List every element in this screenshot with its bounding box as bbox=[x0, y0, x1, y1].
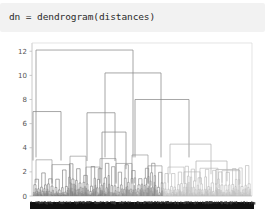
leaf-label-texture bbox=[75, 201, 77, 203]
dendrogram-major-link bbox=[135, 99, 189, 157]
leaf-label-texture bbox=[37, 201, 39, 202]
dendrogram-link bbox=[165, 189, 166, 192]
leaf-label-texture bbox=[120, 202, 122, 204]
dendrogram-link bbox=[243, 190, 244, 193]
leaf-label-texture bbox=[124, 201, 125, 202]
leaf-label-texture bbox=[110, 201, 111, 202]
leaf-label-texture bbox=[193, 202, 194, 204]
dendrogram-link bbox=[44, 189, 45, 192]
y-tick-label: 12 bbox=[18, 48, 27, 56]
dendrogram-link bbox=[86, 167, 100, 184]
leaf-label-texture bbox=[125, 201, 126, 203]
leaf-label-texture bbox=[137, 201, 138, 203]
dendrogram-link bbox=[194, 181, 196, 190]
dendrogram-link bbox=[178, 185, 180, 190]
leaf-label-texture bbox=[159, 202, 160, 203]
dendrogram-link bbox=[205, 177, 207, 189]
leaf-label-texture bbox=[202, 202, 203, 204]
leaf-label-texture bbox=[211, 201, 213, 202]
leaf-label-texture bbox=[234, 202, 235, 203]
code-cell-source: dn = dendrogram(distances) bbox=[9, 11, 155, 23]
leaf-label-texture bbox=[82, 201, 83, 203]
leaf-label-texture bbox=[45, 202, 46, 204]
leaf-label-texture bbox=[226, 202, 228, 204]
leaf-label-texture bbox=[183, 202, 184, 204]
leaf-label-texture bbox=[87, 201, 88, 203]
plot-frame bbox=[32, 43, 252, 196]
y-tick-label: 0 bbox=[23, 193, 27, 201]
dendrogram-link bbox=[109, 184, 110, 192]
leaf-label-texture bbox=[246, 202, 248, 204]
leaf-label-texture bbox=[83, 201, 85, 203]
leaf-label-texture bbox=[167, 202, 169, 204]
leaf-label-texture bbox=[191, 201, 192, 203]
leaf-label-texture bbox=[140, 202, 141, 204]
dendrogram-link bbox=[118, 192, 119, 194]
notebook-output-page: dn = dendrogram(distances) 024681012 bbox=[0, 0, 265, 222]
leaf-label-texture bbox=[184, 202, 185, 204]
dendrogram-link bbox=[84, 175, 88, 184]
dendrogram-major-link bbox=[36, 50, 133, 157]
leaf-label-texture bbox=[130, 201, 131, 203]
leaf-label-texture bbox=[205, 201, 207, 203]
dendrogram-link bbox=[184, 183, 186, 187]
dendrogram-major-link bbox=[196, 161, 227, 181]
leaf-label-texture bbox=[63, 202, 64, 204]
leaf-label-texture bbox=[49, 201, 51, 203]
dendrogram-figure: 024681012 bbox=[0, 36, 265, 222]
dendrogram-link bbox=[164, 183, 166, 189]
leaf-label-texture bbox=[197, 202, 199, 204]
leaf-label-texture bbox=[208, 202, 209, 204]
dendrogram-link bbox=[172, 174, 175, 188]
leaf-label-texture bbox=[221, 202, 223, 204]
code-cell[interactable]: dn = dendrogram(distances) bbox=[0, 3, 265, 32]
dendrogram-link bbox=[63, 170, 67, 188]
dendrogram-link bbox=[72, 179, 74, 184]
leaf-label-texture bbox=[69, 201, 71, 203]
dendrogram-link bbox=[144, 185, 145, 190]
leaf-label-texture bbox=[214, 202, 215, 204]
leaf-label-texture bbox=[165, 201, 167, 203]
leaf-label-texture bbox=[209, 202, 210, 203]
dendrogram-link bbox=[179, 190, 180, 192]
y-tick-label: 4 bbox=[23, 144, 28, 152]
leaf-label-texture bbox=[171, 202, 173, 203]
leaf-label-texture bbox=[77, 202, 79, 204]
leaf-label-texture bbox=[74, 201, 75, 203]
leaf-label-texture bbox=[249, 202, 250, 204]
leaf-label-texture bbox=[240, 202, 241, 203]
dendrogram-link bbox=[97, 179, 99, 187]
dendrogram-link bbox=[67, 191, 68, 194]
dendrogram-link bbox=[200, 189, 201, 192]
leaf-label-texture bbox=[52, 202, 53, 204]
leaf-label-texture bbox=[31, 201, 32, 202]
dendrogram-link bbox=[111, 193, 112, 195]
leaf-label-texture bbox=[220, 202, 221, 203]
dendrogram-link bbox=[101, 190, 102, 194]
leaf-label-texture bbox=[236, 201, 237, 202]
dendrogram-link bbox=[191, 187, 192, 193]
dendrogram-link bbox=[178, 172, 181, 185]
leaf-label-texture bbox=[138, 202, 139, 203]
leaf-label-texture bbox=[177, 202, 178, 204]
y-tick-label: 2 bbox=[23, 168, 27, 176]
leaf-label-texture bbox=[229, 202, 230, 204]
leaf-label-texture bbox=[174, 202, 175, 204]
dendrogram-major-link bbox=[33, 112, 61, 161]
leaf-label-texture bbox=[103, 201, 104, 202]
leaf-label-texture bbox=[204, 202, 205, 205]
dendrogram-link bbox=[39, 192, 40, 194]
dendrogram-link bbox=[152, 163, 155, 175]
y-tick-label: 6 bbox=[23, 120, 28, 128]
dendrogram-link bbox=[68, 188, 69, 193]
leaf-label-texture bbox=[95, 202, 96, 203]
dendrogram-link bbox=[185, 166, 188, 183]
leaf-label-texture bbox=[147, 201, 148, 202]
leaf-label-texture bbox=[56, 202, 57, 204]
leaf-label-texture bbox=[66, 202, 68, 203]
leaf-label-texture bbox=[119, 202, 120, 204]
leaf-label-texture bbox=[150, 202, 151, 204]
dendrogram-link bbox=[112, 167, 115, 186]
dendrogram-link bbox=[168, 189, 169, 193]
dendrogram-link bbox=[155, 186, 156, 190]
